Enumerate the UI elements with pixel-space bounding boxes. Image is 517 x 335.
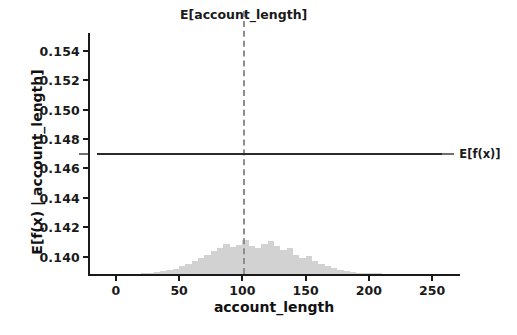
y-tick-mark <box>83 138 88 140</box>
plot-area: 0.1400.1420.1440.1460.1480.1500.1520.154… <box>88 33 460 276</box>
y-tick-label: 0.154 <box>39 43 80 58</box>
y-tick-label: 0.148 <box>39 132 80 147</box>
y-tick-mark <box>83 50 88 52</box>
x-tick-mark <box>115 276 117 281</box>
y-tick-mark <box>83 167 88 169</box>
x-tick-label: 100 <box>229 283 255 298</box>
expected-output-label: E[f(x)] <box>459 147 500 161</box>
y-tick-label: 0.146 <box>39 161 80 176</box>
y-tick-label: 0.152 <box>39 73 80 88</box>
y-tick-mark <box>83 197 88 199</box>
x-tick-mark <box>178 276 180 281</box>
x-tick-label: 200 <box>356 283 382 298</box>
y-tick-mark <box>83 109 88 111</box>
histogram-bar <box>356 273 369 274</box>
expected-output-line-stub-left <box>79 153 88 155</box>
x-tick-mark <box>305 276 307 281</box>
expected-output-line-stub-right <box>442 153 454 155</box>
x-axis-spine <box>88 274 460 276</box>
x-tick-label: 50 <box>170 283 187 298</box>
x-tick-label: 150 <box>293 283 319 298</box>
y-tick-label: 0.140 <box>39 249 80 264</box>
y-tick-mark <box>83 226 88 228</box>
y-tick-label: 0.150 <box>39 102 80 117</box>
x-tick-label: 250 <box>419 283 445 298</box>
y-axis-label-container: E[f(x) | account_length] <box>10 0 30 335</box>
x-tick-mark <box>368 276 370 281</box>
expected-feature-value-line <box>243 11 245 274</box>
x-tick-label: 0 <box>111 283 120 298</box>
histogram-bar <box>369 273 382 274</box>
y-tick-label: 0.144 <box>39 190 80 205</box>
partial-dependence-figure: E[f(x) | account_length] E[account_lengt… <box>0 0 517 335</box>
x-axis-label: account_length <box>88 299 460 315</box>
expected-output-line <box>97 153 442 155</box>
feature-distribution-histogram <box>88 238 460 274</box>
y-tick-label: 0.142 <box>39 220 80 235</box>
x-tick-mark <box>241 276 243 281</box>
y-tick-mark <box>83 79 88 81</box>
x-tick-mark <box>431 276 433 281</box>
